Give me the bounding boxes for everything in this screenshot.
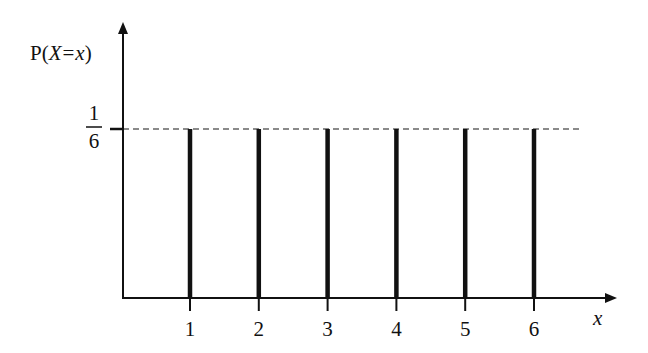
x-ticks: 123456 [185, 298, 540, 341]
x-tick-label: 1 [185, 317, 196, 341]
y-axis-arrow-icon [118, 22, 128, 34]
y-axis-label: P(X=x) [30, 41, 92, 65]
x-tick-label: 2 [254, 317, 265, 341]
x-axis-label: x [592, 306, 603, 330]
uniform-distribution-chart: 123456 P(X=x) 1 6 x [0, 0, 648, 353]
x-tick-label: 3 [322, 317, 333, 341]
x-tick-label: 5 [460, 317, 471, 341]
x-axis-arrow-icon [605, 293, 617, 303]
x-tick-label: 6 [529, 317, 540, 341]
y-tick-denominator: 6 [89, 129, 100, 153]
x-tick-label: 4 [391, 317, 402, 341]
y-tick-numerator: 1 [89, 101, 100, 125]
bars [190, 129, 534, 298]
